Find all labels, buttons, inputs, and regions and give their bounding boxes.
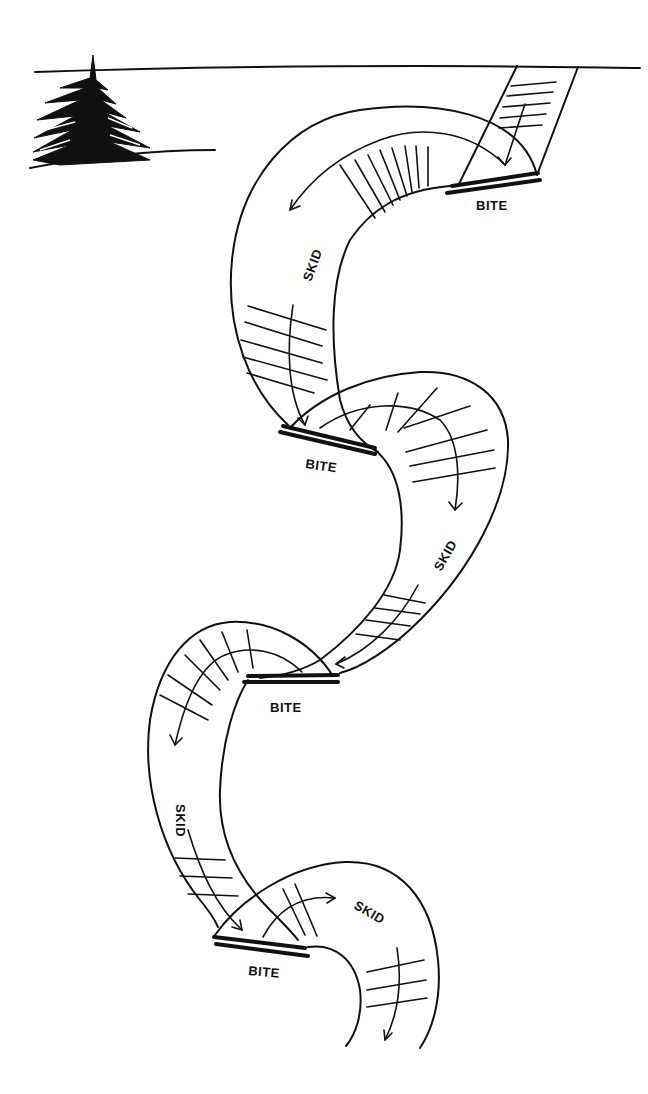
skid-label-3: SKID — [173, 804, 188, 837]
bite-4-marks: BITE — [214, 937, 308, 981]
bite-label-1: BITE — [476, 198, 508, 213]
bite-3-marks: BITE — [244, 675, 338, 715]
skid-label-2: SKID — [431, 537, 461, 573]
turn-1-track — [231, 107, 537, 452]
turn-2-track — [260, 372, 508, 678]
bite-2-marks: BITE — [280, 426, 375, 475]
bite-label-2: BITE — [305, 456, 338, 475]
turn-4-track — [215, 862, 439, 1048]
entry-track — [458, 66, 578, 186]
bite-label-4: BITE — [248, 963, 281, 981]
skid-label-4: SKID — [352, 898, 388, 928]
skid-label-1: SKID — [300, 247, 325, 283]
ski-turn-diagram: BITE SKID BITE SKID BIT — [0, 0, 648, 1094]
turn-3-track — [148, 622, 333, 940]
bite-label-3: BITE — [270, 700, 302, 715]
